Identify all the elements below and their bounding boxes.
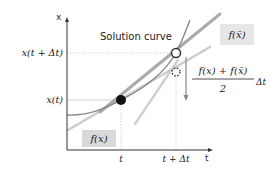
x-axis-arrow-icon <box>208 148 213 152</box>
tick-y-x-t: x(t) <box>46 94 63 105</box>
tick-y-x-t-dt: x(t + Δt) <box>22 47 64 58</box>
delta-arrow-head-icon <box>184 95 189 101</box>
open-point <box>172 49 181 58</box>
axis-label-t: t <box>205 153 209 163</box>
fraction-suffix: Δt <box>255 77 266 87</box>
tick-x-t: t <box>119 154 123 164</box>
filled-point <box>116 95 126 105</box>
tick-x-t-dt: t + Δt <box>163 154 190 164</box>
axis-label-x: x <box>56 12 62 22</box>
heun-method-diagram: x t Solution curve x(t + Δt) x(t) t t + … <box>0 0 280 172</box>
fraction-denominator: 2 <box>219 83 226 94</box>
label-f-xbar: f(x̄) <box>227 29 245 40</box>
y-axis-arrow-icon <box>65 17 69 22</box>
fraction-numerator: f(x) + f(x̄) <box>197 65 247 76</box>
title-solution-curve: Solution curve <box>100 31 172 42</box>
label-f-x: f(x) <box>89 133 107 144</box>
